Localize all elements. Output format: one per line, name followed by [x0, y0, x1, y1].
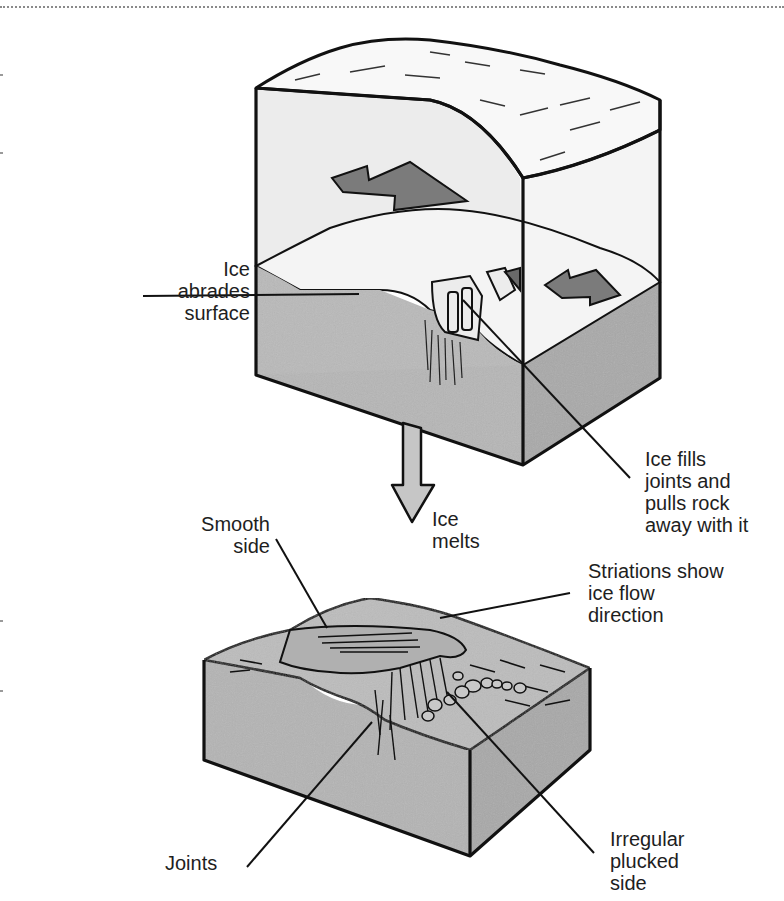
- leader-smooth-side: [276, 539, 327, 628]
- label-ice-melts: Ice melts: [432, 508, 492, 552]
- top-block: [256, 39, 660, 465]
- label-joints: Joints: [165, 852, 245, 874]
- label-ice-fills: Ice fills joints and pulls rock away wit…: [645, 448, 784, 536]
- label-smooth-side: Smooth side: [150, 513, 270, 557]
- ice-melts-arrow-icon: [392, 423, 434, 522]
- label-ice-abrades: Ice abrades surface: [150, 258, 250, 324]
- label-striations: Striations show ice flow direction: [588, 560, 778, 626]
- leader-striations: [440, 593, 570, 618]
- bottom-block: [204, 598, 590, 856]
- label-plucked-side: Irregular plucked side: [610, 828, 720, 894]
